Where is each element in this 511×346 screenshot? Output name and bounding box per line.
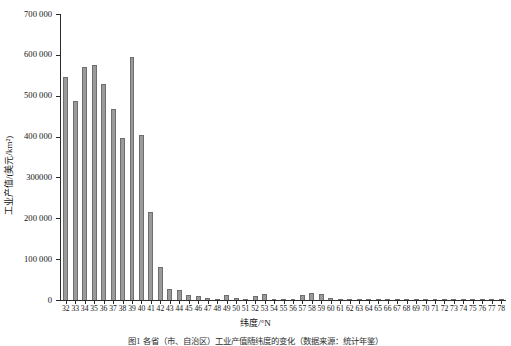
bar — [215, 299, 220, 300]
bar — [489, 299, 494, 300]
y-axis-tick-mark — [56, 300, 60, 301]
bar — [120, 138, 125, 300]
bar — [451, 299, 456, 300]
bar — [262, 294, 267, 300]
bar — [224, 295, 229, 300]
bar — [433, 299, 438, 300]
bar — [404, 299, 409, 300]
bar — [82, 67, 87, 300]
y-axis-tick-mark — [56, 137, 60, 138]
bar — [328, 298, 333, 300]
x-axis-tick-label: 78 — [496, 304, 507, 313]
bar — [357, 299, 362, 300]
bar — [253, 296, 258, 300]
y-axis-tick-label: 500 000 — [24, 91, 52, 100]
bar — [423, 299, 428, 300]
x-axis-tick-labels: 3233343536373839404142434445464748495051… — [61, 304, 506, 316]
bar — [272, 299, 277, 300]
bar — [234, 298, 239, 300]
bar — [291, 299, 296, 300]
bar — [205, 298, 210, 300]
y-axis-tick-label: 300000 — [26, 173, 52, 182]
y-axis-tick-mark — [56, 55, 60, 56]
bar — [281, 299, 286, 300]
bar — [73, 101, 78, 300]
figure-caption: 图1 各省（市、自治区）工业产值随纬度的变化（数据来源：统计年鉴） — [0, 334, 511, 346]
y-axis-tick-mark — [56, 259, 60, 260]
chart-figure: 工业产值/(美元/km²) 0100 000200 000300000400 0… — [0, 0, 511, 346]
y-axis-tick-label: 700 000 — [24, 10, 52, 19]
bar — [101, 84, 106, 300]
bar — [177, 290, 182, 300]
bar — [395, 299, 400, 300]
y-axis-tick-mark — [56, 218, 60, 219]
x-axis-title: 纬度/°N — [0, 316, 511, 329]
bar — [347, 299, 352, 300]
bar — [470, 299, 475, 300]
bar — [196, 296, 201, 300]
bar-series — [61, 14, 506, 300]
bar — [366, 299, 371, 300]
y-axis-tick-mark — [56, 177, 60, 178]
y-axis-tick-mark — [56, 14, 60, 15]
bar — [461, 299, 466, 300]
bar — [139, 135, 144, 300]
bar — [92, 65, 97, 300]
bar — [63, 77, 68, 300]
y-axis-tick-label: 200 000 — [24, 214, 52, 223]
bar — [309, 293, 314, 300]
bar — [148, 212, 153, 300]
bar — [442, 299, 447, 300]
y-axis-tick-label: 600 000 — [24, 50, 52, 59]
bar — [111, 109, 116, 300]
bar — [319, 294, 324, 300]
bar — [480, 299, 485, 300]
bar — [376, 299, 381, 300]
bar — [186, 295, 191, 300]
bar — [414, 299, 419, 300]
y-axis-tick-label: 100 000 — [24, 255, 52, 264]
bar — [300, 295, 305, 300]
y-axis-tick-label: 400 000 — [24, 132, 52, 141]
y-axis-tick-label: 0 — [48, 296, 52, 305]
y-axis-tick-mark — [56, 96, 60, 97]
bar — [385, 299, 390, 300]
y-axis-tick-labels: 0100 000200 000300000400 000500 000600 0… — [0, 0, 56, 346]
bar — [158, 267, 163, 301]
bar — [338, 299, 343, 300]
bar — [499, 299, 504, 300]
bar — [130, 57, 135, 300]
bar — [243, 299, 248, 300]
bar — [167, 289, 172, 300]
